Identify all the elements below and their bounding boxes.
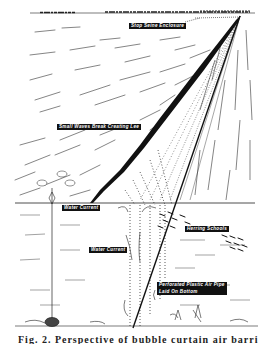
figure-caption: Fig. 2. Perspective of bubble curtain ai… (18, 334, 258, 344)
beach-rocks (37, 171, 75, 186)
label-herring-schools: Herring Schools (185, 226, 229, 232)
label-water-current-surface: Water Current (62, 205, 100, 211)
label-stop-seine-enclosure: Stop Seine Enclosure (129, 23, 186, 29)
sea-surface-ripples (15, 27, 210, 196)
shore-hatching (195, 30, 252, 200)
label-water-current-depth: Water Current (89, 247, 127, 253)
bubble-curtain (125, 150, 172, 328)
label-small-waves: Small Waves Break Creating Lee (57, 124, 141, 130)
measuring-pole (49, 188, 55, 325)
label-air-pipe-line2: Laid On Bottom (159, 289, 225, 296)
stop-seine (185, 17, 240, 22)
horizon-shoreline (30, 11, 255, 13)
canister (45, 318, 59, 327)
lee-ridge (90, 16, 240, 203)
perspective-lines (140, 16, 240, 200)
label-air-pipe: Perforated Plastic Air Pipe Laid On Bott… (157, 282, 227, 295)
label-air-pipe-line1: Perforated Plastic Air Pipe (159, 282, 225, 289)
